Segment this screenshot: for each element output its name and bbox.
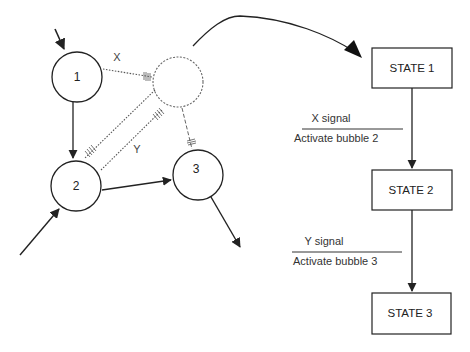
node-2-label: 2 — [73, 179, 80, 193]
state-1: STATE 1 — [372, 48, 452, 88]
edge-input-to-2 — [20, 209, 59, 255]
edge-hidden-to-2 — [85, 90, 155, 158]
edge-label-y: Y — [133, 143, 141, 155]
edge-3-to-output — [211, 197, 240, 247]
edge-label-x: X — [113, 51, 121, 63]
transition-1-2-label: X signal Activate bubble 2 — [294, 112, 403, 144]
edge-input-to-1 — [55, 29, 64, 49]
edge-1-to-hidden-x — [103, 69, 152, 81]
edge-2-to-hidden-y — [101, 108, 164, 170]
diagram-canvas: 1 2 3 X Y STATE 1 STATE — [0, 0, 470, 352]
edge-2-to-3 — [102, 180, 171, 190]
node-3: 3 — [173, 150, 223, 200]
state-2: STATE 2 — [372, 170, 452, 210]
state-3: STATE 3 — [372, 293, 451, 334]
edge-hidden-to-3 — [182, 108, 196, 149]
mapping-arrow — [193, 16, 355, 52]
transition-2-3-label: Y signal Activate bubble 3 — [292, 235, 402, 267]
transition-2-3-condition: Y signal — [305, 235, 344, 247]
node-3-label: 3 — [193, 162, 200, 176]
node-1-label: 1 — [74, 70, 81, 84]
state-2-label: STATE 2 — [389, 184, 434, 196]
transition-1-2-condition: X signal — [311, 112, 350, 124]
state-1-label: STATE 1 — [390, 62, 435, 74]
mapping-arrow-head — [344, 40, 362, 58]
node-2: 2 — [51, 161, 101, 211]
transition-2-3-action: Activate bubble 3 — [293, 255, 377, 267]
transition-1-2-action: Activate bubble 2 — [294, 132, 378, 144]
state-3-label: STATE 3 — [388, 307, 433, 319]
node-hidden-dashed — [153, 57, 203, 107]
node-1: 1 — [52, 52, 102, 102]
